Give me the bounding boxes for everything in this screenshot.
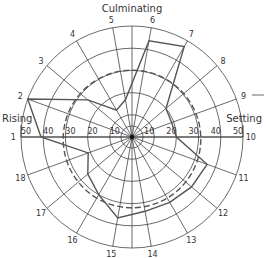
- radial-tick-label: 10: [110, 127, 120, 136]
- spoke-label: 14: [148, 250, 158, 258]
- culminating-label: Culminating: [102, 3, 162, 14]
- spoke-label: 5: [109, 16, 114, 25]
- center-point: [130, 135, 134, 139]
- radial-tick-label: 20: [88, 127, 98, 136]
- spoke-label: 12: [218, 209, 228, 218]
- spoke-label: 4: [70, 30, 75, 39]
- spoke-label: 1: [11, 133, 16, 142]
- spoke-label: 11: [239, 174, 249, 183]
- spoke-label: 7: [189, 30, 194, 39]
- radial-tick-label: 10: [144, 127, 154, 136]
- spoke-label: 3: [38, 57, 43, 66]
- polar-chart-svg: 10102020303040405050 1234567891011121314…: [0, 0, 266, 258]
- rising-label: Rising: [2, 113, 32, 124]
- spoke-label: 6: [150, 16, 155, 25]
- setting-label: Setting: [226, 113, 262, 124]
- spoke-label: 17: [36, 209, 46, 218]
- radial-tick-label: 30: [65, 127, 75, 136]
- spoke-label: 13: [186, 236, 196, 245]
- spoke-label: 16: [68, 236, 78, 245]
- grid-spoke: [47, 137, 132, 208]
- radial-tick-label: 30: [189, 127, 199, 136]
- spoke-label: 8: [220, 57, 225, 66]
- radial-tick-label: 50: [233, 127, 243, 136]
- radial-tick-label: 40: [43, 127, 53, 136]
- spoke-label: 2: [18, 92, 23, 101]
- spoke-label: 9: [241, 92, 246, 101]
- spoke-label: 18: [15, 174, 25, 183]
- polar-chart: 10102020303040405050 1234567891011121314…: [0, 0, 266, 258]
- spoke-label: 10: [246, 133, 256, 142]
- grid-spoke: [132, 137, 217, 208]
- spoke-label: 15: [106, 250, 116, 258]
- radial-tick-label: 50: [21, 127, 31, 136]
- radial-tick-label: 40: [211, 127, 221, 136]
